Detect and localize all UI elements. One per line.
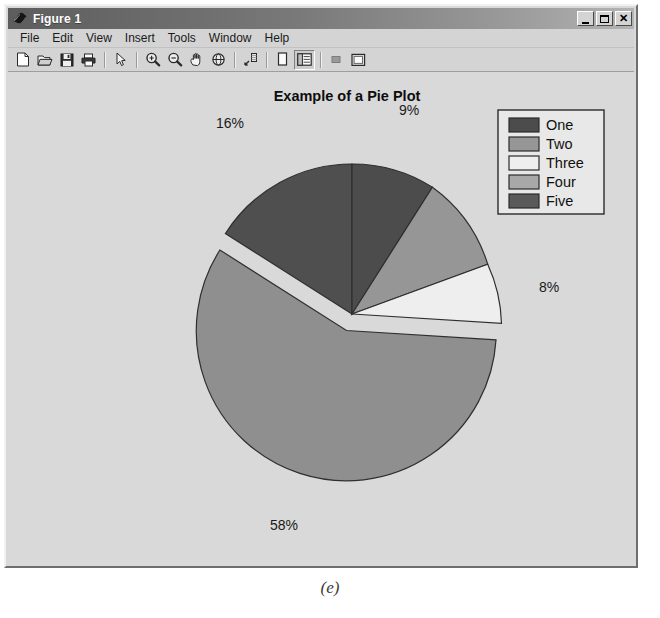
save-figure-icon xyxy=(60,53,74,67)
maximize-icon xyxy=(600,15,609,23)
legend-label-two: Two xyxy=(546,136,573,152)
figure-window: Figure 1 ✕ File Edit View Insert Tools W… xyxy=(4,4,638,568)
figure-palette-icon xyxy=(276,52,289,67)
screenshot-root: Figure 1 ✕ File Edit View Insert Tools W… xyxy=(0,0,660,618)
rotate-3d-icon xyxy=(211,52,226,67)
print-figure-button[interactable] xyxy=(78,50,99,70)
zoom-out-button[interactable] xyxy=(164,50,185,70)
dock-figure-button[interactable] xyxy=(348,50,369,70)
figure-palette-button[interactable] xyxy=(272,50,293,70)
property-editor-icon xyxy=(330,53,343,66)
chart-legend[interactable]: One Two Three Four Five xyxy=(498,110,604,214)
rotate-3d-button[interactable] xyxy=(208,50,229,70)
close-icon: ✕ xyxy=(619,13,628,24)
plot-browser-icon xyxy=(297,53,312,66)
menu-edit[interactable]: Edit xyxy=(46,30,80,46)
legend-label-three: Three xyxy=(546,155,584,171)
edit-plot-pointer-button[interactable] xyxy=(110,50,131,70)
menu-insert[interactable]: Insert xyxy=(119,30,162,46)
legend-label-one: One xyxy=(546,117,573,133)
legend-label-four: Four xyxy=(546,174,576,190)
save-figure-button[interactable] xyxy=(56,50,77,70)
print-figure-icon xyxy=(81,53,97,67)
chart-title: Example of a Pie Plot xyxy=(274,88,421,104)
pie-chart: 9% 9% 8% 58% 16% Example of a Pie Plot O… xyxy=(8,73,634,564)
legend-swatch-two xyxy=(509,137,539,151)
pie-label-three: 8% xyxy=(539,279,559,295)
maximize-button[interactable] xyxy=(596,11,613,26)
close-button[interactable]: ✕ xyxy=(615,11,632,26)
zoom-in-icon xyxy=(145,52,161,67)
toolbar-separator xyxy=(266,52,268,68)
minimize-icon xyxy=(582,22,589,24)
edit-plot-pointer-icon xyxy=(115,52,127,67)
menu-file[interactable]: File xyxy=(14,30,46,46)
legend-swatch-one xyxy=(509,118,539,132)
menubar: File Edit View Insert Tools Window Help xyxy=(8,29,634,48)
figure-caption: (e) xyxy=(0,578,660,598)
plot-canvas[interactable]: 9% 9% 8% 58% 16% Example of a Pie Plot O… xyxy=(8,73,634,564)
insert-colorbar-icon xyxy=(243,52,259,67)
menu-window[interactable]: Window xyxy=(203,30,259,46)
pie-label-four: 58% xyxy=(270,517,298,533)
open-file-button[interactable] xyxy=(34,50,55,70)
new-figure-button[interactable] xyxy=(12,50,33,70)
toolbar-separator xyxy=(104,52,106,68)
menu-view[interactable]: View xyxy=(80,30,119,46)
legend-swatch-five xyxy=(509,194,539,208)
window-controls: ✕ xyxy=(577,11,632,26)
pan-button[interactable] xyxy=(186,50,207,70)
zoom-out-icon xyxy=(167,52,183,67)
plot-browser-button[interactable] xyxy=(294,50,315,70)
minimize-button[interactable] xyxy=(577,11,594,26)
insert-colorbar-button[interactable] xyxy=(240,50,261,70)
pie-label-five: 16% xyxy=(216,115,244,131)
toolbar-separator xyxy=(136,52,138,68)
zoom-in-button[interactable] xyxy=(142,50,163,70)
matlab-figure-icon xyxy=(12,11,28,26)
toolbar xyxy=(8,48,634,72)
legend-label-five: Five xyxy=(546,193,573,209)
menu-help[interactable]: Help xyxy=(259,30,297,46)
toolbar-separator xyxy=(320,52,322,68)
property-editor-button[interactable] xyxy=(326,50,347,70)
dock-figure-icon xyxy=(351,53,366,67)
legend-swatch-four xyxy=(509,175,539,189)
window-title: Figure 1 xyxy=(33,12,577,26)
new-figure-icon xyxy=(16,52,30,67)
pan-hand-icon xyxy=(189,52,204,67)
toolbar-separator xyxy=(234,52,236,68)
pie-label-one: 9% xyxy=(399,102,419,118)
legend-swatch-three xyxy=(509,156,539,170)
open-file-icon xyxy=(37,53,53,67)
menu-tools[interactable]: Tools xyxy=(162,30,203,46)
window-titlebar[interactable]: Figure 1 ✕ xyxy=(8,8,634,29)
